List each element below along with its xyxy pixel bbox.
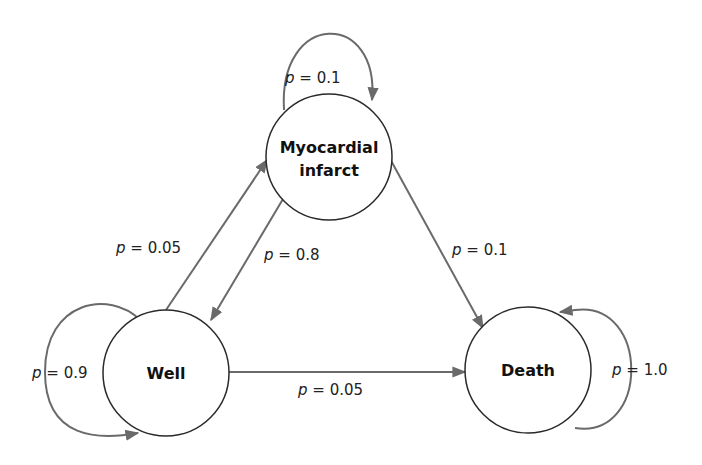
node-well-label: Well: [147, 364, 186, 383]
node-mi-label-line1: Myocardial: [280, 138, 379, 157]
label-death-to-death: p = 1.0: [611, 361, 668, 379]
edge-well-to-mi: [166, 160, 267, 310]
label-mi-to-well: p = 0.8: [263, 246, 320, 264]
markov-diagram: Myocardial infarct Well Death p = 0.1 p …: [0, 0, 702, 465]
node-death-label: Death: [501, 361, 555, 380]
label-mi-to-mi: p = 0.1: [284, 69, 341, 87]
label-well-to-death: p = 0.05: [297, 381, 363, 399]
label-well-to-well: p = 0.9: [31, 364, 88, 382]
label-mi-to-death: p = 0.1: [451, 241, 508, 259]
node-mi: Myocardial infarct: [266, 94, 392, 220]
label-well-to-mi: p = 0.05: [115, 239, 181, 257]
node-death: Death: [465, 307, 591, 433]
node-mi-label-line2: infarct: [299, 161, 359, 180]
node-well: Well: [103, 310, 229, 436]
